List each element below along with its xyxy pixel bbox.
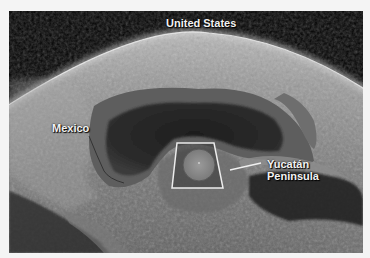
crater-center-mark: [198, 162, 200, 164]
label-yucatan-line2: Peninsula: [267, 170, 319, 182]
satellite-photo: United States Mexico Yucatán Peninsula: [9, 11, 363, 253]
impact-crater-circle: [183, 149, 215, 181]
label-yucatan-line1: Yucatán: [267, 158, 319, 170]
label-united-states: United States: [166, 17, 236, 29]
label-mexico: Mexico: [52, 122, 89, 134]
label-yucatan-peninsula: Yucatán Peninsula: [267, 158, 319, 182]
